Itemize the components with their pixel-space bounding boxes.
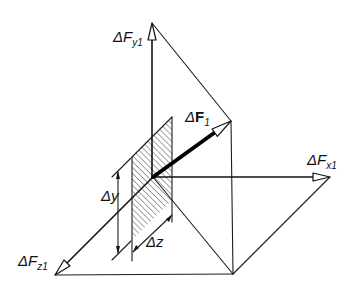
label-delta-y: Δy	[100, 187, 120, 204]
arrowhead-y-icon	[148, 23, 156, 40]
z-projection-line	[55, 274, 233, 275]
force-decomposition-diagram: ΔFy1 ΔF1 ΔFx1 ΔFz1 Δy Δz	[0, 0, 353, 292]
force-component-x	[153, 173, 330, 181]
base-diagonal-line	[153, 177, 233, 274]
dim-arrow-left-icon	[133, 245, 139, 252]
x-projection-line	[233, 177, 330, 274]
vertical-projection-line	[231, 121, 233, 274]
label-delta-fz1: ΔFz1	[17, 252, 48, 272]
dim-arrow-right-icon	[166, 215, 172, 222]
label-delta-z: Δz	[145, 233, 164, 250]
label-delta-fy1: ΔFy1	[112, 28, 143, 48]
top-diagonal-line	[152, 23, 231, 121]
label-delta-f1: ΔF1	[184, 108, 210, 128]
label-delta-fx1: ΔFx1	[306, 151, 337, 171]
